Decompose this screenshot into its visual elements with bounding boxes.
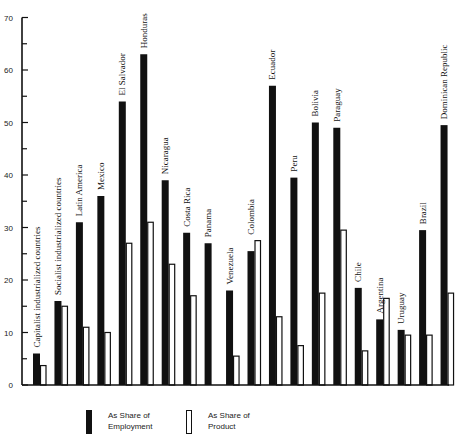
category-label: Dominican Republic (439, 44, 449, 119)
bar-employment (269, 86, 276, 385)
bar-product (298, 346, 304, 385)
bar-product (169, 264, 175, 385)
bar-product (234, 356, 240, 385)
category-label: Socialist industrialized countries (53, 177, 63, 295)
bar-product (105, 333, 111, 386)
category-label: Argentina (375, 278, 385, 314)
bar-product (62, 306, 67, 385)
category-label: Costa Rica (182, 188, 192, 227)
y-tick-label: 30 (4, 224, 13, 233)
legend-product-line2: Product (208, 421, 298, 432)
category-label: Capitalist industrialized countries (32, 226, 42, 347)
bar-product (319, 293, 325, 385)
category-label: Panama (203, 209, 213, 238)
bar-employment (76, 222, 83, 385)
bar-employment (398, 330, 405, 385)
bar-employment (226, 291, 233, 386)
category-label: Chile (353, 262, 363, 282)
bars (33, 54, 454, 385)
bar-product (148, 222, 154, 385)
bar-product (427, 335, 433, 385)
bar-employment (248, 251, 255, 385)
bar-product (126, 243, 132, 385)
bar-employment (162, 180, 169, 385)
bar-product (341, 230, 347, 385)
category-label: El Salvador (117, 53, 127, 95)
bar-employment (183, 233, 190, 385)
category-label: Peru (289, 155, 299, 172)
category-label: Brazil (418, 202, 428, 224)
category-label: Latin America (74, 165, 84, 217)
bar-product (362, 351, 368, 385)
category-label: Uruguay (396, 292, 406, 324)
y-tick-label: 10 (4, 329, 13, 338)
bar-chart: 010203040506070 Capitalist industrialize… (0, 0, 457, 444)
category-label: Mexico (96, 162, 106, 190)
bar-product (448, 293, 454, 385)
bar-employment (119, 102, 126, 386)
bar-product (41, 366, 47, 385)
bar-product (255, 241, 261, 385)
bar-employment (205, 243, 212, 385)
y-tick-label: 70 (4, 14, 13, 23)
y-tick-label: 50 (4, 119, 13, 128)
category-label: Paraguay (332, 88, 342, 122)
category-label: Colombia (246, 199, 256, 235)
bar-employment (33, 354, 40, 386)
category-labels: Capitalist industrialized countriesSocia… (32, 13, 450, 348)
bar-employment (312, 123, 319, 386)
bar-employment (97, 196, 104, 385)
bar-employment (355, 288, 362, 385)
bar-employment (333, 128, 340, 385)
bar-employment (54, 301, 61, 385)
y-axis: 010203040506070 (4, 14, 28, 391)
bar-product (83, 327, 89, 385)
y-tick-label: 40 (4, 171, 13, 180)
category-label: Bolivia (310, 90, 320, 117)
y-tick-label: 0 (9, 381, 14, 390)
bar-product (191, 296, 197, 385)
legend-employment-line1: As Share of (108, 410, 198, 421)
bar-employment (140, 54, 147, 385)
bar-product (405, 335, 411, 385)
bar-employment (419, 230, 426, 385)
category-label: Venezuela (225, 248, 235, 285)
legend-product-line1: As Share of (208, 410, 298, 421)
bar-employment (376, 319, 383, 385)
bar-employment (441, 125, 448, 385)
bar-product (276, 317, 282, 385)
product-swatch (186, 410, 192, 434)
bar-employment (290, 178, 297, 385)
y-tick-label: 20 (4, 276, 13, 285)
employment-swatch (86, 410, 92, 434)
category-label: Ecuador (267, 50, 277, 80)
legend-employment-line2: Employment (108, 421, 198, 432)
category-label: Nicaragua (160, 137, 170, 174)
category-label: Honduras (139, 13, 149, 48)
y-tick-label: 60 (4, 66, 13, 75)
